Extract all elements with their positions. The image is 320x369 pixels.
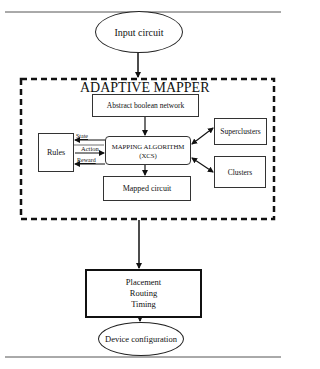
input-circuit-node: Input circuit (95, 11, 183, 53)
device-configuration-node: Device configuration (98, 322, 184, 356)
mapped-circuit-node: Mapped circuit (103, 176, 191, 201)
superclusters-node: Superclusters (214, 118, 267, 145)
clusters-label: Clusters (228, 168, 253, 177)
routing-label: Routing (130, 288, 157, 299)
placement-routing-timing-node: Placement Routing Timing (85, 269, 202, 318)
reward-label: Reward (77, 157, 96, 163)
clusters-node: Clusters (214, 156, 266, 188)
state-label: State (76, 133, 88, 139)
adaptive-mapper-title: ADAPTIVE MAPPER (80, 81, 205, 95)
placement-label: Placement (126, 277, 161, 288)
abstract-boolean-network-label: Abstract boolean network (107, 101, 184, 110)
abstract-boolean-network-node: Abstract boolean network (92, 94, 199, 117)
superclusters-label: Superclusters (220, 127, 260, 136)
rules-node: Rules (38, 133, 74, 172)
mapping-algorithm-node: MAPPING ALGORITHM (XCS) (105, 136, 191, 165)
device-configuration-label: Device configuration (105, 334, 177, 344)
mapping-algorithm-label: MAPPING ALGORITHM (112, 142, 185, 151)
timing-label: Timing (131, 299, 156, 310)
mapping-algorithm-sublabel: (XCS) (139, 151, 157, 160)
rules-label: Rules (47, 148, 65, 157)
action-label: Action (81, 146, 99, 153)
input-circuit-label: Input circuit (114, 27, 163, 38)
mapped-circuit-label: Mapped circuit (123, 184, 172, 193)
